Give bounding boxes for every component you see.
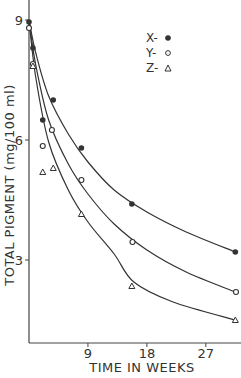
open-circle-icon (40, 144, 45, 149)
filled-circle-icon (79, 145, 85, 151)
x-tick-label: 18 (139, 346, 156, 361)
axes (29, 0, 241, 343)
filled-circle-icon (26, 19, 32, 25)
legend-label-x: X- (146, 31, 158, 45)
filled-circle-icon (129, 201, 135, 207)
fit-curves (29, 20, 235, 320)
filled-circle-icon (40, 117, 46, 123)
open-circle-icon (49, 128, 54, 133)
legend-label-y: Y- (145, 46, 156, 60)
curve-y (29, 20, 235, 292)
triangle-icon (78, 211, 84, 217)
open-circle-icon (166, 51, 171, 56)
data-markers (26, 19, 238, 322)
filled-circle-icon (165, 35, 171, 41)
x-tick-label: 27 (198, 346, 215, 361)
triangle-icon (40, 169, 46, 175)
y-axis-title: TOTAL PIGMENT (mg/100 ml) (2, 84, 17, 287)
open-circle-icon (79, 178, 84, 183)
x-tick-label: 9 (84, 346, 92, 361)
x-axis-title: TIME IN WEEKS (88, 360, 195, 375)
filled-circle-icon (233, 249, 239, 255)
legend: X- Y- Z- (145, 31, 171, 75)
curve-z (29, 20, 235, 320)
curve-x (29, 20, 235, 252)
triangle-icon (165, 65, 171, 71)
open-circle-icon (233, 290, 238, 295)
triangle-icon (50, 165, 56, 171)
pigment-chart: 369 91827 TOTAL PIGMENT (mg/100 ml) TIME… (0, 0, 241, 378)
x-ticks: 91827 (84, 343, 214, 361)
open-circle-icon (27, 26, 32, 31)
open-circle-icon (130, 240, 135, 245)
y-tick-label: 9 (15, 13, 23, 28)
triangle-icon (129, 283, 135, 289)
filled-circle-icon (30, 45, 36, 51)
filled-circle-icon (50, 97, 56, 103)
legend-label-z: Z- (146, 61, 158, 75)
